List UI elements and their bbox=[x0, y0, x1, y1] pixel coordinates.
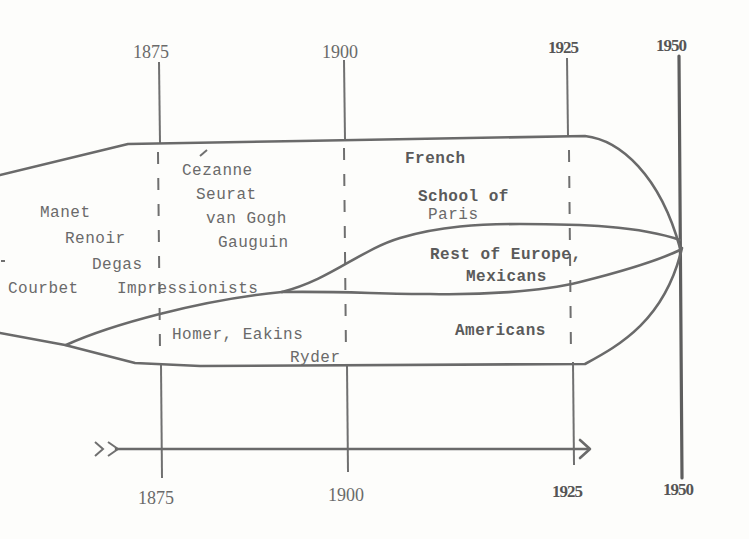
artist-courbet: Courbet bbox=[8, 280, 79, 298]
year-label-top-1900: 1900 bbox=[322, 42, 358, 63]
stream-rest-of-europe-line1: Rest of Europe, bbox=[430, 246, 582, 264]
stream-american-early-line2: Ryder bbox=[290, 349, 341, 367]
tick-1900-top bbox=[344, 60, 345, 140]
year-label-top-1875: 1875 bbox=[133, 42, 169, 63]
tick-1900-bottom bbox=[347, 365, 348, 472]
artist-manet: Manet bbox=[40, 204, 91, 222]
stream-school-of-paris-line1: School of bbox=[418, 188, 509, 206]
divider-1875 bbox=[158, 152, 160, 350]
stream-school-of-paris-line2: Paris bbox=[428, 206, 479, 224]
tick-1925-top bbox=[567, 58, 568, 136]
artist-gauguin: Gauguin bbox=[218, 234, 289, 252]
stream-american-early-line1: Homer, Eakins bbox=[172, 326, 303, 344]
stream-americans: Americans bbox=[455, 322, 546, 340]
impressionists-label: Impressionists bbox=[117, 280, 258, 298]
artist-van-gogh: van Gogh bbox=[206, 210, 287, 228]
artist-cezanne: Cezanne bbox=[182, 162, 253, 180]
year-label-bottom-1925: 1925 bbox=[552, 482, 582, 502]
year-label-bottom-1875: 1875 bbox=[138, 488, 174, 509]
tick-1875-top bbox=[159, 62, 160, 143]
artist-seurat: Seurat bbox=[196, 186, 257, 204]
artist-degas: Degas bbox=[92, 256, 143, 274]
artist-renoir: Renoir bbox=[65, 230, 126, 248]
tick-1875-bottom bbox=[161, 365, 162, 478]
stream-rest-of-europe-line2: Mexicans bbox=[466, 268, 547, 286]
year-label-top-1950: 1950 bbox=[656, 36, 686, 56]
stream-french: French bbox=[405, 150, 466, 168]
year-label-top-1925: 1925 bbox=[548, 38, 578, 58]
year-label-bottom-1900: 1900 bbox=[328, 485, 364, 506]
divider-1900 bbox=[344, 148, 346, 355]
tick-1950-line bbox=[679, 56, 682, 478]
chevron-icon bbox=[95, 442, 103, 456]
year-label-bottom-1950: 1950 bbox=[663, 480, 693, 500]
accent-mark bbox=[200, 150, 207, 156]
